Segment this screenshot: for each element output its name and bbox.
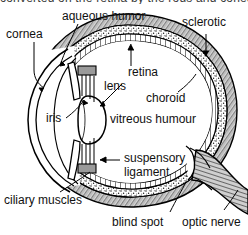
- label-suspensory-ligament-line2: ligament: [124, 166, 169, 178]
- label-lens: lens: [104, 80, 126, 92]
- label-ciliary-muscles: ciliary muscles: [4, 194, 82, 206]
- label-blind-spot: blind spot: [112, 216, 163, 228]
- cutoff-caption-line: converted on the retina by the rods and …: [0, 0, 248, 4]
- label-retina: retina: [128, 66, 158, 78]
- eye-diagram-figure: converted on the retina by the rods and …: [0, 0, 248, 235]
- label-choroid: choroid: [146, 92, 185, 104]
- label-aqueous-humor: aqueous humor: [62, 10, 145, 22]
- label-vitreous-humour: vitreous humour: [110, 113, 196, 125]
- label-optic-nerve: optic nerve: [182, 216, 241, 228]
- label-sclerotic: sclerotic: [182, 16, 226, 28]
- label-cornea: cornea: [6, 28, 43, 40]
- label-suspensory-ligament-line1: suspensory: [124, 152, 185, 164]
- label-iris: iris: [46, 112, 61, 124]
